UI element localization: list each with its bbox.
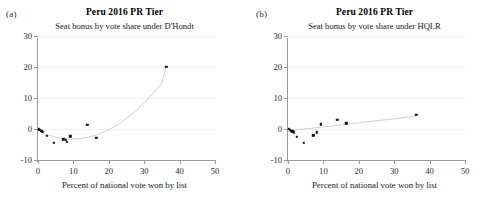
- x-tick-label: 20: [105, 166, 114, 176]
- x-tick: [465, 160, 466, 164]
- x-tick: [38, 160, 39, 164]
- scatter-point: [45, 135, 47, 137]
- panel-a: (a) Peru 2016 PR Tier Seat bonus by vote…: [0, 0, 249, 200]
- scatter-point: [302, 142, 304, 144]
- panel-a-title: Peru 2016 PR Tier: [0, 7, 249, 17]
- x-tick-label: 10: [69, 166, 78, 176]
- x-tick: [144, 160, 145, 164]
- scatter-point: [316, 131, 318, 133]
- x-tick-label: 20: [355, 166, 364, 176]
- x-tick: [109, 160, 110, 164]
- scatter-point: [42, 131, 44, 133]
- y-tick-label: -10: [21, 155, 32, 165]
- scatter-point: [95, 136, 97, 138]
- x-tick-label: 40: [175, 166, 184, 176]
- scatter-point: [295, 136, 297, 138]
- x-tick: [430, 160, 431, 164]
- y-tick-label: 20: [23, 62, 32, 72]
- x-tick: [359, 160, 360, 164]
- y-tick-label: 0: [278, 124, 282, 134]
- x-axis-line: [37, 160, 215, 161]
- scatter-point: [312, 134, 314, 136]
- y-tick-label: -10: [271, 155, 282, 165]
- fit-line: [288, 36, 465, 160]
- x-tick-label: 0: [36, 166, 40, 176]
- y-tick-label: 30: [23, 31, 32, 41]
- x-tick-label: 40: [425, 166, 434, 176]
- scatter-point: [336, 118, 338, 120]
- x-tick: [215, 160, 216, 164]
- scatter-point: [320, 123, 322, 125]
- y-tick-label: 30: [273, 31, 282, 41]
- panel-b: (b) Peru 2016 PR Tier Seat bonus by vote…: [250, 0, 499, 200]
- x-axis-line: [287, 160, 465, 161]
- y-tick-label: 10: [273, 93, 282, 103]
- panel-a-subtitle: Seat bonus by vote share under D'Hondt: [0, 21, 249, 31]
- x-tick-label: 50: [211, 166, 220, 176]
- x-tick: [288, 160, 289, 164]
- scatter-point: [52, 141, 54, 143]
- figure-two-panel-scatter: (a) Peru 2016 PR Tier Seat bonus by vote…: [0, 0, 499, 200]
- x-tick: [323, 160, 324, 164]
- x-tick-label: 10: [319, 166, 328, 176]
- panel-a-xaxis-title: Percent of national vote won by list: [0, 180, 249, 190]
- plot-area-b: -10010203001020304050: [288, 36, 465, 162]
- y-tick-label: 0: [28, 124, 32, 134]
- panel-b-title: Peru 2016 PR Tier: [250, 7, 499, 17]
- scatter-point: [292, 131, 294, 133]
- x-tick: [73, 160, 74, 164]
- y-tick-label: 10: [23, 93, 32, 103]
- x-tick-label: 50: [461, 166, 470, 176]
- scatter-point: [345, 122, 347, 124]
- x-tick: [394, 160, 395, 164]
- x-tick-label: 0: [286, 166, 290, 176]
- panel-b-subtitle: Seat bonus by vote share under HQLR: [250, 21, 499, 31]
- plot-area-a: -10010203001020304050: [38, 36, 215, 162]
- scatter-point: [66, 141, 68, 143]
- fit-line: [38, 36, 215, 160]
- x-tick: [180, 160, 181, 164]
- x-tick-label: 30: [140, 166, 149, 176]
- scatter-point: [86, 123, 88, 125]
- x-tick-label: 30: [390, 166, 399, 176]
- y-tick-label: 20: [273, 62, 282, 72]
- scatter-point: [165, 66, 167, 68]
- panel-b-xaxis-title: Percent of national vote won by list: [250, 180, 499, 190]
- scatter-point: [69, 135, 71, 137]
- scatter-point: [415, 114, 417, 116]
